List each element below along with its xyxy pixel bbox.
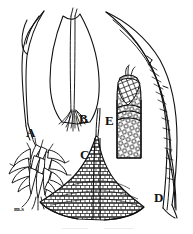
line-drawing-canvas	[0, 0, 193, 234]
artist-signature: m.s	[14, 206, 24, 213]
specimen-a-shoot	[22, 11, 44, 140]
specimen-e-capsule	[117, 65, 141, 158]
figure-label-e: E	[105, 114, 114, 127]
specimen-b-leaf	[50, 8, 99, 124]
botanical-figure-plate: A B C D E m.s	[0, 0, 193, 234]
caption-smudge	[62, 228, 88, 229]
figure-label-d: D	[154, 191, 163, 204]
figure-label-a: A	[26, 126, 35, 139]
caption-smudge-2	[104, 228, 134, 229]
figure-label-b: B	[79, 112, 88, 125]
figure-label-c: C	[80, 148, 89, 161]
